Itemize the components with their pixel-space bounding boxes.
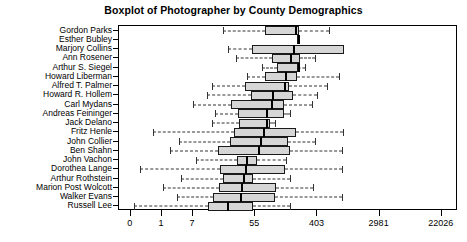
- upper-whisker: [289, 86, 326, 87]
- median-line: [245, 165, 247, 174]
- median-line: [266, 119, 268, 128]
- median-line: [295, 26, 297, 35]
- lower-whisker: [163, 187, 219, 188]
- plot-area: [118, 25, 457, 210]
- median-line: [240, 193, 242, 202]
- upper-whisker-cap: [290, 203, 291, 210]
- x-axis-tick-label: 1: [158, 218, 163, 228]
- upper-whisker-cap: [290, 175, 291, 182]
- lower-whisker: [262, 67, 277, 68]
- median-line: [298, 35, 300, 44]
- x-axis-tick: [192, 210, 193, 216]
- x-axis-tick: [130, 210, 131, 216]
- upper-whisker-cap: [342, 166, 343, 173]
- lower-whisker: [212, 123, 239, 124]
- box: [265, 26, 299, 35]
- median-line: [298, 63, 300, 72]
- x-axis: 01755403298122026: [118, 210, 457, 242]
- upper-whisker: [285, 169, 343, 170]
- box: [231, 100, 284, 109]
- lower-whisker: [153, 132, 234, 133]
- upper-whisker: [299, 30, 329, 31]
- median-line: [272, 91, 274, 100]
- upper-whisker-cap: [342, 147, 343, 154]
- upper-whisker-cap: [305, 64, 306, 71]
- box: [234, 128, 296, 137]
- lower-whisker-cap: [207, 92, 208, 99]
- upper-whisker-cap: [339, 73, 340, 80]
- lower-whisker-cap: [212, 120, 213, 127]
- median-line: [284, 82, 286, 91]
- upper-whisker-cap: [286, 157, 287, 164]
- lower-whisker-cap: [181, 175, 182, 182]
- lower-whisker-cap: [212, 83, 213, 90]
- upper-whisker: [257, 160, 286, 161]
- x-axis-tick: [441, 210, 442, 216]
- lower-whisker-cap: [262, 64, 263, 71]
- median-line: [241, 183, 243, 192]
- lower-whisker-cap: [177, 194, 178, 201]
- lower-whisker: [228, 49, 252, 50]
- lower-whisker-cap: [223, 27, 224, 34]
- box: [265, 72, 297, 81]
- boxplot-chart: Boxplot of Photographer by County Demogr…: [0, 0, 467, 242]
- lower-whisker: [207, 95, 250, 96]
- median-line: [246, 156, 248, 165]
- upper-whisker-cap: [315, 138, 316, 145]
- upper-whisker-cap: [313, 184, 314, 191]
- x-axis-tick-label: 7: [190, 218, 195, 228]
- lower-whisker: [196, 160, 238, 161]
- upper-whisker-cap: [275, 120, 276, 127]
- median-line: [258, 146, 260, 155]
- x-axis-tick: [161, 210, 162, 216]
- lower-whisker: [247, 76, 265, 77]
- x-axis-tick-label: 403: [309, 218, 324, 228]
- lower-whisker-cap: [247, 73, 248, 80]
- upper-whisker-cap: [312, 101, 313, 108]
- upper-whisker-cap: [343, 129, 344, 136]
- upper-whisker: [253, 206, 290, 207]
- lower-whisker-cap: [140, 166, 141, 173]
- lower-whisker: [181, 178, 222, 179]
- median-line: [290, 54, 292, 63]
- median-line: [271, 100, 273, 109]
- upper-whisker: [276, 187, 312, 188]
- box: [220, 165, 284, 174]
- lower-whisker-cap: [163, 184, 164, 191]
- upper-whisker-cap: [315, 55, 316, 62]
- box: [272, 54, 300, 63]
- lower-whisker-cap: [236, 55, 237, 62]
- upper-whisker: [275, 197, 343, 198]
- lower-whisker: [134, 206, 208, 207]
- lower-whisker: [236, 58, 272, 59]
- lower-whisker-cap: [215, 110, 216, 117]
- upper-whisker-cap: [327, 83, 328, 90]
- lower-whisker: [193, 104, 231, 105]
- chart-title: Boxplot of Photographer by County Demogr…: [0, 4, 467, 16]
- upper-whisker-cap: [290, 110, 291, 117]
- box: [239, 119, 270, 128]
- x-axis-tick-label: 0: [127, 218, 132, 228]
- x-axis-tick: [254, 210, 255, 216]
- median-line: [260, 137, 262, 146]
- box: [277, 63, 298, 72]
- y-axis-label-group: Gordon ParksEsther BubleyMarjory Collins…: [0, 25, 112, 210]
- lower-whisker-cap: [153, 129, 154, 136]
- y-axis-label: Russell Lee: [68, 201, 112, 210]
- box: [213, 193, 274, 202]
- upper-whisker: [288, 141, 315, 142]
- lower-whisker-cap: [134, 203, 135, 210]
- x-axis-tick: [379, 210, 380, 216]
- box: [238, 109, 284, 118]
- upper-whisker: [253, 178, 290, 179]
- lower-whisker: [140, 169, 220, 170]
- x-axis-tick: [316, 210, 317, 216]
- upper-whisker: [290, 150, 342, 151]
- lower-whisker: [212, 86, 246, 87]
- median-line: [285, 72, 287, 81]
- upper-whisker: [296, 132, 343, 133]
- lower-whisker-cap: [170, 147, 171, 154]
- median-line: [266, 109, 268, 118]
- lower-whisker: [170, 150, 218, 151]
- lower-whisker: [177, 197, 213, 198]
